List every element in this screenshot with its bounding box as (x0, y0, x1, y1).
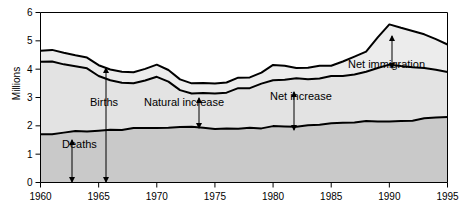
annotation-label: Net immigration (348, 58, 425, 70)
x-tick-label: 1990 (378, 191, 401, 202)
y-tick-label: 6 (27, 7, 33, 18)
y-tick-label: 4 (27, 64, 33, 75)
annotation-label: Net increase (270, 90, 332, 102)
y-tick-label: 1 (27, 149, 33, 160)
annotation-label: Natural increase (144, 96, 224, 108)
x-tick-label: 1975 (204, 191, 227, 202)
chart-figure: 012345619601965197019751980198519901995D… (0, 0, 461, 214)
x-tick-label: 1965 (88, 191, 111, 202)
annotation-label: Deaths (62, 138, 97, 150)
y-axis-title: Millions (11, 54, 22, 114)
x-tick-label: 1995 (436, 191, 459, 202)
x-tick-label: 1970 (146, 191, 169, 202)
y-tick-label: 5 (27, 35, 33, 46)
y-tick-label: 0 (27, 177, 33, 188)
chart-canvas: 012345619601965197019751980198519901995D… (0, 0, 461, 214)
x-tick-label: 1960 (29, 191, 52, 202)
x-tick-label: 1980 (262, 191, 285, 202)
y-tick-label: 3 (27, 92, 33, 103)
y-tick-label: 2 (27, 120, 33, 131)
x-tick-label: 1985 (320, 191, 343, 202)
annotation-label: Births (90, 96, 119, 108)
